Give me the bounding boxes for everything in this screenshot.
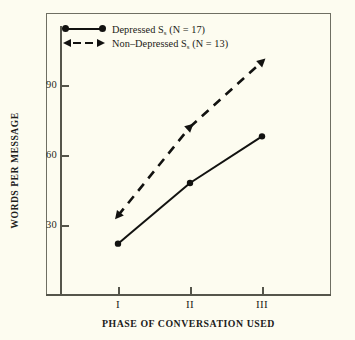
legend-label-non-depressed: Non–Depressed Ss (N = 13) [112,38,228,49]
y-axis-tick-label-90: 90 [46,79,57,90]
y-axis-tick-label-30-wrap: 30 [30,219,57,231]
x-axis-tick-3 [262,287,264,295]
legend-item-depressed: Depressed Ss (N = 17) [62,22,228,36]
legend-label-depressed: Depressed Ss (N = 17) [112,24,205,35]
legend-item-non-depressed: Non–Depressed Ss (N = 13) [62,36,228,50]
y-axis-tick-label-60-wrap: 60 [30,149,57,161]
x-axis-tick-label-3: III [247,298,277,310]
y-axis-tick-label-30: 30 [46,219,57,230]
y-axis-tick-label-60: 60 [46,149,57,160]
x-axis-tick-label-1: I [103,298,133,310]
x-axis-line [46,294,331,296]
x-axis-tick-label-2: II [175,298,205,310]
legend-label-depressed-tail: (N = 17) [167,24,206,35]
y-axis-tick-90 [60,85,69,87]
legend-marker-solid-line-icon [62,23,106,35]
y-axis-tick-label-90-wrap: 90 [30,79,57,91]
y-axis-line [60,26,62,294]
legend-label-non-depressed-main: Non–Depressed S [112,38,187,49]
y-axis-title: WORDS PER MESSAGE [5,98,23,243]
chart-figure: 90 60 30 I II III WORDS PER MESSAGE PHAS… [0,0,355,340]
x-axis-tick-2 [190,287,192,295]
y-axis-title-text: WORDS PER MESSAGE [9,112,20,229]
legend-marker-dashed-line-icon [62,37,106,49]
y-axis-tick-60 [60,155,69,157]
legend-label-non-depressed-sub: s [187,43,190,51]
chart-legend: Depressed Ss (N = 17) Non–Depressed Ss (… [62,22,228,50]
legend-label-depressed-main: Depressed S [112,24,164,35]
x-axis-tick-1 [118,287,120,295]
x-axis-title: PHASE OF CONVERSATION USED [46,318,331,329]
y-axis-tick-30 [60,225,69,227]
legend-label-non-depressed-tail: (N = 13) [190,38,229,49]
plot-frame [46,13,331,296]
